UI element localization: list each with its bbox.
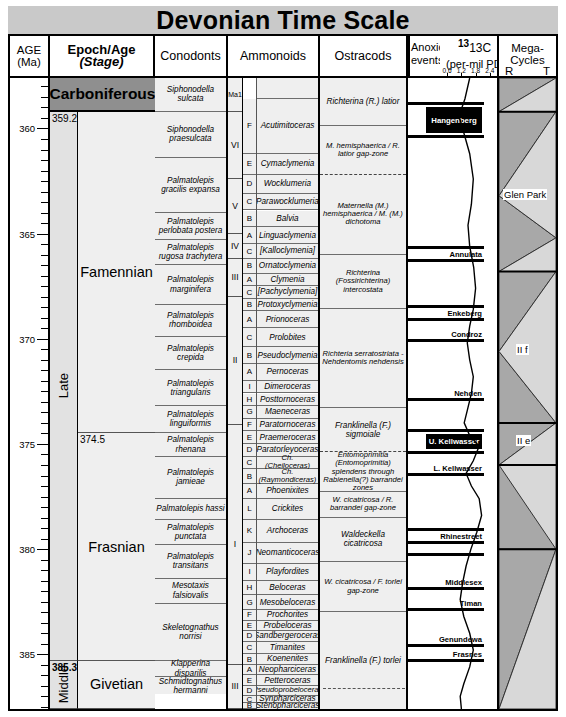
ammonoid-letter-cell: B [243,347,256,364]
conodont-zone-cell: Palmatolepis rhomboidea [155,305,226,337]
age-tick-label: 370 [19,333,35,344]
ammonoid-letter-cell: A [243,274,256,287]
age-tick [41,581,48,582]
ammonoid-zone-cell: Stenopharciceras [257,703,318,709]
age-tick [41,297,48,298]
conodont-zone-cell: Mesotaxis falsiovalis [155,579,226,604]
ammonoid-letter-cell: E [243,621,256,632]
conodonts-column: Siphonodella sulcataSiphonodella praesul… [155,78,228,709]
ammonoid-zone-cell: Ornatoclymenia [257,259,318,274]
age-tick [37,549,48,550]
ammonoid-zone-cell: Prionoceras [257,311,318,328]
ammonoid-stage-cell: III [228,665,242,709]
age-tick [41,202,48,203]
ammonoid-zone-cell: Linguaclymenia [257,227,318,244]
ammonoid-letter-cell: A [243,364,256,381]
ammonoid-stage-cell: II [228,297,242,425]
ammonoid-stage-cell: V [228,179,242,234]
age-tick [41,633,48,634]
ostracod-zone-cell: Maternella (M.) hemisphaerica / M. (M.) … [320,175,406,255]
ammonoid-letter-cell: D [243,175,256,194]
ammonoid-letter-cell: J [243,543,256,564]
boundary-label-359: 359.2 [52,113,77,124]
d13c-tick [490,73,491,77]
age-tick [41,591,48,592]
age-tick [41,181,48,182]
ammonoid-zone-cell: Neopharciceras [257,665,318,676]
age-tick [41,402,48,403]
age-tick [41,486,48,487]
ostracod-zone-cell: M. hemisphaerica / R. latior gap-zone [320,126,406,174]
ammonoid-letter-cell: G [243,406,256,419]
ammonoid-stage-cell: VI [228,112,242,179]
ammonoid-zone-cell: Pseudoclymenia [257,347,318,364]
divider-anoxic-left [408,36,410,76]
ammonoid-letter-cell: G [243,595,256,610]
age-tick [41,412,48,413]
conodont-zone-cell: Palmatolepis hassi [155,499,226,520]
ammonoid-letter-cell: A [243,311,256,328]
conodont-zone-cell: Palmatolepis perlobata postera [155,213,226,240]
ostracod-zone-cell: Richterina (R.) latior [320,78,406,126]
mega-cycle-label: Glen Park [503,189,547,200]
age-tick [41,454,48,455]
age-tick [41,391,48,392]
ammonoid-letter-cell: A [243,665,256,676]
age-tick-label: 385 [19,649,35,660]
ammonoid-zone-cell: Sandbergeroceras [257,631,318,642]
age-tick [41,150,48,151]
age-tick-label: 360 [19,123,35,134]
age-tick [41,665,48,666]
ammonoid-zone-cell: Acutimitoceras [257,99,318,154]
ammonoid-zone-cell: Phoenixites [257,484,318,499]
d13c-tick [447,73,448,77]
ammonoid-letter-cell: B [243,259,256,274]
age-tick [41,423,48,424]
ammonoid-letter-cell: B [243,299,256,312]
conodont-zone-cell: Skeletognathus norrisi [155,604,226,661]
age-tick [41,213,48,214]
boundary-label-385: 385.3 [52,662,77,673]
conodont-zone-cell: Palmatolepis gracilis expansa [155,158,226,213]
ammonoid-zone-cell: Cymaclymenia [257,154,318,175]
age-tick [41,244,48,245]
ammonoid-letter-cell: A [243,484,256,499]
stage-givetian: Givetian [78,661,155,709]
ammonoid-stage-cell: III [228,259,242,297]
age-tick [41,433,48,434]
age-tick [41,539,48,540]
ammonoid-letter-cell: B [243,703,256,709]
ammonoid-letter-cell: B [243,211,256,228]
conodont-zone-cell: Klapperina disparilis [155,661,226,678]
ammonoid-zone-cell: Clymenia [257,274,318,287]
conodont-zone-cell: Palmatolepis punctata [155,520,226,545]
ammonoid-letter-cell: K [243,520,256,543]
header-conodonts: Conodonts [155,36,228,76]
age-axis: 360365370375380385 [10,78,50,709]
age-tick [41,360,48,361]
ammonoid-stage-column: Ma1VIVIVIIIIIIIII [228,78,243,709]
conodont-zone-cell: Palmatolepis jamieae [155,457,226,499]
conodont-zone-cell: Palmatolepis marginifera [155,265,226,305]
ostracod-zone-cell: W. cicatricosa / R. barrandei gap-zone [320,492,406,517]
age-tick [41,560,48,561]
age-tick [41,370,48,371]
ammonoid-letter-cell: E [243,154,256,175]
ammonoid-letter-cell: B [243,469,256,484]
ammonoid-zone-cell: Posttornoceras [257,394,318,407]
age-tick [41,476,48,477]
age-tick [41,265,48,266]
age-tick [41,612,48,613]
age-tick [41,518,48,519]
ammonoid-zone-cell: Prolobites [257,328,318,347]
conodont-zone-cell: Siphonodella sulcata [155,78,226,112]
ammonoid-zone-cell: Maeneceras [257,406,318,419]
age-tick [37,128,48,129]
ammonoid-zone-cell: Balvia [257,211,318,228]
age-tick [41,328,48,329]
d13c-curve [440,78,497,709]
ostracod-zone-cell: Entomoprimitia (Entomoprimitia) splenden… [320,452,406,492]
ammonoid-zone-cell: Prochorites [257,610,318,621]
age-tick-label: 380 [19,544,35,555]
age-tick [37,339,48,340]
